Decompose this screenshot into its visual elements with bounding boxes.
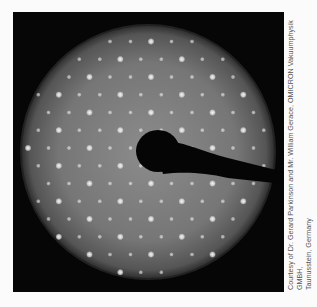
diffraction-pattern (13, 12, 284, 292)
credit-line-1: Courtesy of Dr. Gerard Parkinson and Mr.… (286, 0, 304, 290)
credit-line-2: Taunusstein, Germany (304, 0, 313, 290)
image-credit: Courtesy of Dr. Gerard Parkinson and Mr.… (286, 0, 313, 290)
leed-diffraction-photo (13, 12, 284, 292)
